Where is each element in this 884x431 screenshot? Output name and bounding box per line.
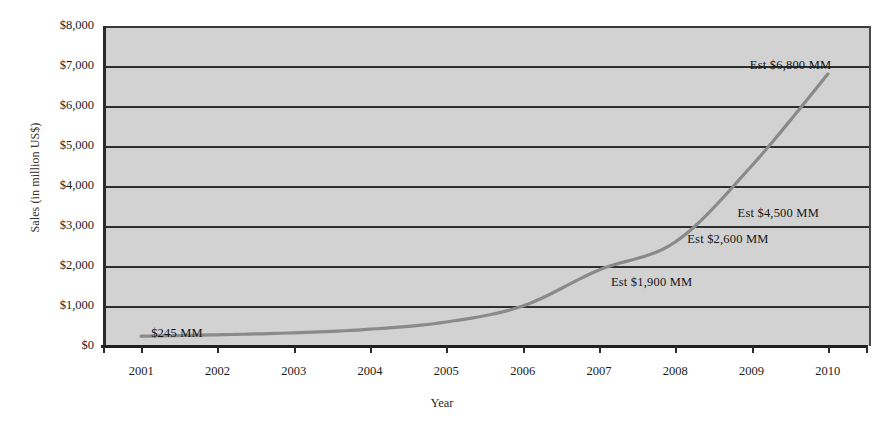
x-tick xyxy=(217,346,219,353)
x-tick xyxy=(675,346,677,353)
data-label-2007: Est $1,900 MM xyxy=(611,275,692,290)
y-tick-label: $5,000 xyxy=(32,138,94,153)
y-axis-tick-labels: $8,000$7,000$6,000$5,000$4,000$3,000$2,0… xyxy=(28,0,94,431)
data-label-2009: Est $4,500 MM xyxy=(738,206,819,221)
y-tick-label: $1,000 xyxy=(32,298,94,313)
x-tick-label: 2007 xyxy=(559,364,639,379)
x-tick-label: 2009 xyxy=(712,364,792,379)
x-tick xyxy=(294,346,296,353)
data-label-2001: $245 MM xyxy=(151,326,203,341)
x-axis-end-tick xyxy=(103,346,105,353)
y-tick-label: $0 xyxy=(32,338,94,353)
x-tick-label: 2010 xyxy=(788,364,868,379)
x-tick-label: 2008 xyxy=(635,364,715,379)
x-tick-label: 2001 xyxy=(101,364,181,379)
x-tick-label: 2004 xyxy=(330,364,410,379)
y-tick-label: $6,000 xyxy=(32,98,94,113)
sales-line-chart: Sales (in million US$) $8,000$7,000$6,00… xyxy=(0,0,884,431)
x-tick-label: 2002 xyxy=(177,364,257,379)
x-tick-label: 2003 xyxy=(254,364,334,379)
x-tick xyxy=(828,346,830,353)
y-tick-label: $3,000 xyxy=(32,218,94,233)
x-tick xyxy=(446,346,448,353)
y-tick-label: $2,000 xyxy=(32,258,94,273)
y-tick-label: $4,000 xyxy=(32,178,94,193)
data-label-2010: Est $6,800 MM xyxy=(750,58,831,73)
x-axis-title: Year xyxy=(0,396,884,411)
x-tick xyxy=(599,346,601,353)
y-tick-label: $8,000 xyxy=(32,18,94,33)
y-tick-label: $7,000 xyxy=(32,58,94,73)
data-label-2008: Est $2,600 MM xyxy=(687,232,768,247)
x-tick xyxy=(141,346,143,353)
x-axis-end-tick xyxy=(866,346,868,353)
x-tick-label: 2005 xyxy=(406,364,486,379)
x-tick xyxy=(752,346,754,353)
x-tick xyxy=(523,346,525,353)
x-tick-label: 2006 xyxy=(483,364,563,379)
series-line-sales xyxy=(103,26,866,346)
x-tick xyxy=(370,346,372,353)
